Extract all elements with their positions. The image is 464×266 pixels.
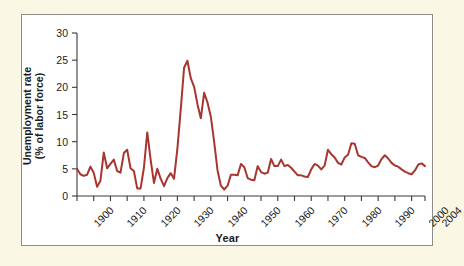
y-tick-label: 5 <box>46 163 68 175</box>
y-tick-label: 25 <box>46 54 68 66</box>
data-series-group <box>77 61 425 190</box>
y-tick-label: 0 <box>46 190 68 202</box>
unemployment-rate-line <box>77 61 425 190</box>
y-tick-label: 30 <box>46 27 68 39</box>
y-axis-title: Unemployment rate (% of labor force) <box>22 54 45 178</box>
x-axis-title: Year <box>0 232 455 244</box>
axes-group <box>72 33 425 201</box>
y-tick-label: 10 <box>46 136 68 148</box>
y-tick-label: 20 <box>46 81 68 93</box>
y-axis-title-line2: (% of labor force) <box>33 73 45 159</box>
y-axis-title-line1: Unemployment rate <box>21 67 33 165</box>
y-axis-title-wrapper: Unemployment rate (% of labor force) <box>22 58 44 178</box>
y-tick-label: 15 <box>46 109 68 121</box>
